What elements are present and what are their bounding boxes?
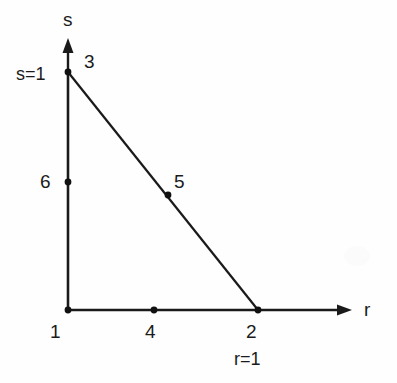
edge-hypotenuse [68,72,258,310]
figure-canvas: s r s=1 r=1 1 2 3 4 5 6 [0,0,397,383]
r-axis-arrow-icon [337,305,352,316]
node-marker-1 [65,307,72,314]
r-equals-one-label: r=1 [234,350,261,368]
node-marker-2 [255,307,262,314]
node-marker-5 [165,192,172,199]
node-marker-6 [65,179,72,186]
node-label-1: 1 [50,322,61,341]
node-label-5: 5 [174,172,185,191]
node-label-6: 6 [40,172,51,191]
node-label-4: 4 [145,322,156,341]
node-label-3: 3 [84,52,95,71]
s-axis-arrow-icon [63,38,74,53]
s-equals-one-label: s=1 [16,65,46,83]
node-label-2: 2 [246,322,257,341]
node-marker-3 [65,69,72,76]
r-axis-label: r [364,300,370,319]
s-axis-label: s [63,10,73,29]
element-edges-group [68,72,258,310]
axes-group [63,38,353,316]
node-marker-4 [151,307,158,314]
